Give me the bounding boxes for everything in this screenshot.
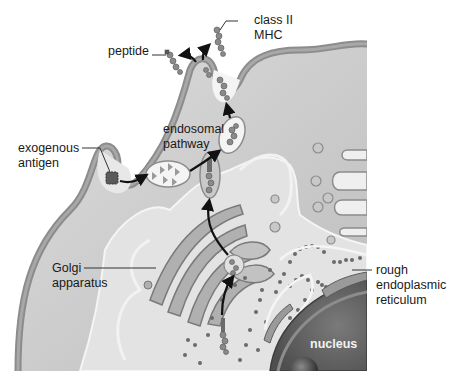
label-peptide-text: peptide <box>108 44 149 59</box>
label-rough-er: rough endoplasmic reticulum <box>376 263 446 308</box>
label-exogenous-antigen: exogenous antigen <box>18 141 79 171</box>
endocytic-vesicle <box>146 161 190 187</box>
label-endosomal-pathway: endosomal pathway <box>163 122 224 152</box>
nucleolus <box>290 357 318 385</box>
label-endosomal-line1: endosomal <box>163 122 224 137</box>
label-golgi-apparatus: Golgi apparatus <box>52 261 108 291</box>
cell-illustration <box>0 0 458 385</box>
class-ii-mhc-molecule <box>214 27 226 57</box>
label-rough-er-line3: reticulum <box>376 293 446 308</box>
arrow-release-left <box>182 55 196 62</box>
label-class-ii-line2: MHC <box>254 28 293 43</box>
exogenous-antigen <box>106 172 118 184</box>
diagram-canvas: peptide class II MHC exogenous antigen e… <box>0 0 458 385</box>
label-golgi-line2: apparatus <box>52 276 108 291</box>
label-golgi-line1: Golgi <box>52 261 108 276</box>
label-peptide: peptide <box>108 44 149 59</box>
leader-class-ii-mhc <box>220 21 238 30</box>
label-class-ii-mhc: class II MHC <box>254 13 293 43</box>
trans-golgi-vesicle <box>224 255 244 276</box>
label-endosomal-line2: pathway <box>163 137 224 152</box>
label-rough-er-line1: rough <box>376 263 446 278</box>
label-class-ii-line1: class II <box>254 13 293 28</box>
label-exogenous-line2: antigen <box>18 156 79 171</box>
peptide-mhc-complex <box>165 50 183 75</box>
label-exogenous-line1: exogenous <box>18 141 79 156</box>
label-rough-er-line2: endoplasmic <box>376 278 446 293</box>
label-nucleus: nucleus <box>310 337 357 351</box>
